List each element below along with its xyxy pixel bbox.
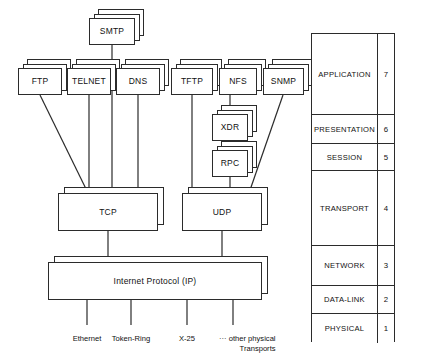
osi-layer-number: 4 — [378, 204, 394, 213]
osi-layer-number: 3 — [378, 261, 394, 270]
protocol-label: XDR — [221, 123, 240, 132]
protocol-box-xdr[interactable]: XDR — [212, 114, 248, 141]
protocol-label: TFTP — [181, 77, 203, 86]
osi-layer-name: DATA-LINK — [312, 295, 377, 304]
card-face: SMTP — [89, 18, 135, 45]
protocol-box-tftp[interactable]: TFTP — [171, 68, 213, 95]
protocol-label: SMTP — [100, 27, 124, 36]
osi-layer-physical[interactable]: PHYSICAL 1 — [312, 314, 394, 343]
card-face: TFTP — [171, 68, 213, 95]
osi-layer-name: SESSION — [312, 153, 377, 162]
osi-layer-number: 6 — [378, 125, 394, 134]
card-face: TELNET — [67, 68, 111, 95]
physical-transport-token-ring: Token-Ring — [112, 334, 150, 344]
osi-layer-number: 2 — [378, 295, 394, 304]
osi-layer-name: APPLICATION — [312, 70, 377, 79]
protocol-box-snmp[interactable]: SNMP — [263, 68, 304, 95]
osi-layer-application[interactable]: APPLICATION 7 — [312, 34, 394, 115]
protocol-box-dns[interactable]: DNS — [116, 68, 160, 95]
card-face: DNS — [116, 68, 160, 95]
osi-layer-data-link[interactable]: DATA-LINK 2 — [312, 286, 394, 314]
osi-layer-name: NETWORK — [312, 261, 377, 270]
slab-face: UDP — [182, 193, 262, 231]
card-face: XDR — [212, 114, 248, 141]
osi-layer-number: 5 — [378, 153, 394, 162]
protocol-label: RPC — [221, 159, 240, 168]
osi-model-stack: APPLICATION 7 PRESENTATION 6 SESSION 5 T… — [311, 33, 395, 342]
physical-transport-ethernet: Ethernet — [73, 334, 102, 344]
protocol-box-udp[interactable]: UDP — [182, 193, 262, 231]
protocol-label: UDP — [213, 207, 232, 217]
protocol-label: FTP — [32, 77, 49, 86]
protocol-label: Internet Protocol (IP) — [114, 276, 197, 286]
slab-face: TCP — [58, 193, 158, 231]
osi-layer-presentation[interactable]: PRESENTATION 6 — [312, 115, 394, 144]
protocol-box-ip[interactable]: Internet Protocol (IP) — [48, 262, 262, 300]
physical-transport-other: ··· other physical Transports — [219, 334, 276, 355]
protocol-box-nfs[interactable]: NFS — [219, 68, 257, 95]
card-face: NFS — [219, 68, 257, 95]
protocol-label: NFS — [229, 77, 247, 86]
osi-layer-name: PRESENTATION — [312, 125, 377, 134]
protocol-box-rpc[interactable]: RPC — [212, 150, 248, 177]
osi-layer-number: 1 — [378, 324, 394, 333]
wire-ftp-tcp — [40, 95, 88, 193]
protocol-label: TCP — [99, 207, 117, 217]
protocol-label: TELNET — [72, 77, 106, 86]
slab-face: Internet Protocol (IP) — [48, 262, 262, 300]
protocol-box-tcp[interactable]: TCP — [58, 193, 158, 231]
physical-transport-other-line1: ··· other physical — [219, 334, 276, 344]
protocol-label: SNMP — [271, 77, 296, 86]
physical-transport-other-line2: Transports — [219, 344, 276, 354]
card-face: SNMP — [263, 68, 304, 95]
diagram-canvas: SMTP FTP TELNET DNS TFTP NFS — [0, 0, 421, 364]
osi-layer-session[interactable]: SESSION 5 — [312, 144, 394, 171]
osi-layer-transport[interactable]: TRANSPORT 4 — [312, 171, 394, 246]
physical-transport-x25: X-25 — [179, 334, 195, 344]
osi-layer-name: PHYSICAL — [312, 324, 377, 333]
card-face: FTP — [18, 68, 62, 95]
osi-layer-number: 7 — [378, 70, 394, 79]
card-face: RPC — [212, 150, 248, 177]
osi-layer-name: TRANSPORT — [312, 204, 377, 213]
protocol-box-smtp[interactable]: SMTP — [89, 18, 135, 45]
protocol-label: DNS — [129, 77, 148, 86]
protocol-box-ftp[interactable]: FTP — [18, 68, 62, 95]
protocol-box-telnet[interactable]: TELNET — [67, 68, 111, 95]
osi-layer-network[interactable]: NETWORK 3 — [312, 246, 394, 286]
